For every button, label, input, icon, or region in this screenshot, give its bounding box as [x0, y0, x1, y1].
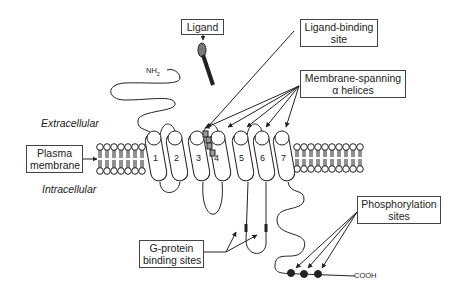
transmembrane-helices: [144, 131, 296, 182]
extracellular-label: Extracellular: [41, 117, 99, 129]
c-terminal-chain: [275, 182, 355, 276]
helix-number: 4: [214, 153, 219, 163]
c-terminus-label: COOH: [354, 271, 377, 280]
lipid-bilayer-left: [97, 144, 146, 175]
g-protein-marks: [246, 224, 266, 232]
g-protein-binding-sites-label: G-protein binding sites: [139, 240, 204, 268]
helix-number: 3: [196, 153, 201, 163]
n-terminus-label: NH2: [146, 66, 160, 77]
lipid-bilayer-right: [294, 144, 364, 173]
helix-number: 5: [239, 153, 244, 163]
helix-number: 6: [260, 153, 265, 163]
intracellular-label: Intracellular: [42, 183, 96, 195]
n-terminal-chain: [111, 69, 180, 136]
helix-number: 7: [281, 153, 286, 163]
membrane-spanning-helices-label: Membrane-spanning α helices: [300, 70, 406, 98]
plasma-membrane-label: Plasma membrane: [26, 145, 83, 173]
ligand-binding-site-label: Ligand-binding site: [300, 19, 378, 47]
phosphorylation-sites-label: Phosphorylation sites: [357, 196, 441, 224]
phosphorylation-residues: [288, 270, 322, 278]
ligand-tail: [203, 55, 213, 85]
helix-number: 2: [174, 153, 179, 163]
ligand-label: Ligand: [181, 19, 224, 35]
helix-number: 1: [153, 153, 158, 163]
